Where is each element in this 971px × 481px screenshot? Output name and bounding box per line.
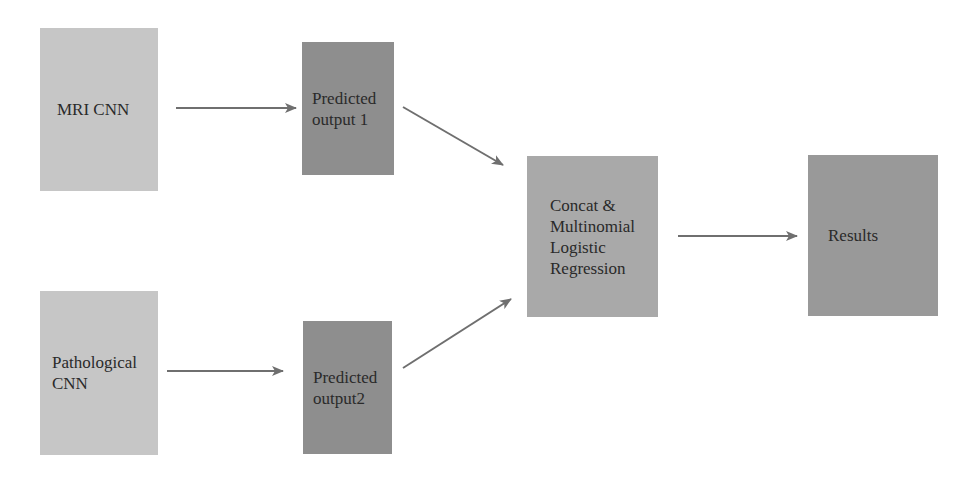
node-concat-logistic-regression: Concat & Multinomial Logistic Regression <box>527 156 658 317</box>
node-label: Results <box>828 225 878 246</box>
node-label: Predicted output2 <box>313 367 377 409</box>
arrow-pred2-to-concat <box>403 299 511 368</box>
node-mri-cnn: MRI CNN <box>40 28 158 191</box>
node-label: Predicted output 1 <box>312 88 376 130</box>
node-results: Results <box>808 155 938 316</box>
node-label: MRI CNN <box>57 99 129 120</box>
node-label: Concat & Multinomial Logistic Regression <box>550 195 635 279</box>
node-predicted-output-2: Predicted output2 <box>303 321 392 454</box>
node-predicted-output-1: Predicted output 1 <box>302 42 394 175</box>
node-label: Pathological CNN <box>52 352 137 394</box>
arrow-pred1-to-concat <box>403 107 503 165</box>
node-pathological-cnn: Pathological CNN <box>40 291 158 455</box>
